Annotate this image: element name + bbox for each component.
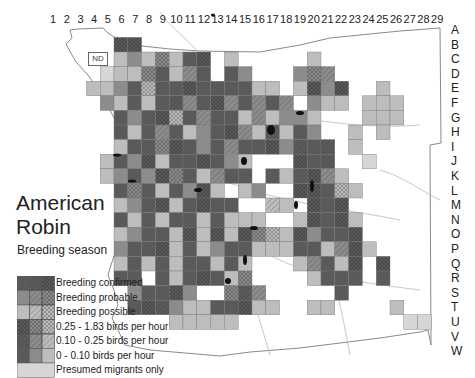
column-label: 9 — [160, 13, 166, 25]
grid-cell-pattern — [169, 286, 183, 301]
grid-cell — [280, 140, 294, 155]
grid-cell — [211, 300, 225, 315]
grid-cell — [169, 125, 183, 140]
grid-cell — [169, 81, 183, 96]
grid-cell-pattern — [349, 242, 363, 257]
grid-cell-pattern — [293, 154, 307, 169]
row-label: R — [451, 271, 460, 285]
grid-cell — [335, 271, 349, 286]
grid-cell — [197, 300, 211, 315]
grid-cell — [280, 169, 294, 184]
grid-cell — [142, 140, 156, 155]
column-label: 15 — [239, 13, 251, 25]
grid-cell — [293, 169, 307, 184]
row-label: W — [451, 344, 462, 358]
grid-cell-pattern — [307, 198, 321, 213]
grid-cell — [293, 213, 307, 228]
row-label: G — [451, 111, 460, 125]
grid-cell — [238, 183, 252, 198]
grid-cell — [224, 110, 238, 125]
row-label: S — [451, 286, 459, 300]
grid-cell-pattern — [211, 227, 225, 242]
grid-cell — [155, 256, 169, 271]
grid-cell — [183, 198, 197, 213]
grid-cell — [211, 315, 225, 330]
column-label: 12 — [198, 13, 210, 25]
column-label: 24 — [362, 13, 374, 25]
grid-cell — [197, 256, 211, 271]
grid-cell — [169, 256, 183, 271]
grid-cell — [169, 213, 183, 228]
grid-cell — [114, 67, 128, 82]
column-label: 26 — [390, 13, 402, 25]
grid-cell — [390, 300, 404, 315]
grid-cell — [376, 271, 390, 286]
grid-cell — [197, 96, 211, 111]
row-label: P — [451, 242, 459, 256]
grid-cell — [155, 67, 169, 82]
grid-cell — [100, 96, 114, 111]
grid-cell — [224, 213, 238, 228]
grid-cell — [128, 52, 142, 67]
grid-cell — [266, 96, 280, 111]
grid-cell — [335, 96, 349, 111]
grid-cell — [142, 286, 156, 301]
grid-cell — [266, 169, 280, 184]
grid-cell — [362, 154, 376, 169]
grid-cell-pattern — [197, 154, 211, 169]
legend-label: 0.25 - 1.83 birds per hour — [56, 320, 168, 334]
grid-cell — [142, 52, 156, 67]
row-label: U — [451, 315, 460, 329]
grid-cell — [404, 315, 418, 330]
grid-cell — [197, 140, 211, 155]
grid-cell — [376, 81, 390, 96]
grid-cell — [211, 183, 225, 198]
grid-cell-pattern — [349, 227, 363, 242]
grid-cell — [280, 198, 294, 213]
row-label: A — [451, 23, 459, 37]
column-label: 20 — [308, 13, 320, 25]
grid-cell — [418, 315, 432, 330]
grid-cell-pattern — [266, 227, 280, 242]
grid-cell — [211, 271, 225, 286]
grid-cell — [335, 286, 349, 301]
grid-cell-pattern — [155, 169, 169, 184]
grid-cell-pattern — [128, 37, 142, 52]
grid-cell — [307, 140, 321, 155]
grid-cell — [307, 271, 321, 286]
grid-cell — [321, 183, 335, 198]
grid-cell — [238, 110, 252, 125]
grid-cell — [321, 198, 335, 213]
grid-cell — [183, 286, 197, 301]
grid-cell — [142, 227, 156, 242]
row-label: D — [451, 67, 460, 81]
grid-cell — [293, 67, 307, 82]
grid-cell-pattern — [155, 198, 169, 213]
grid-cell — [211, 242, 225, 257]
grid-cell — [238, 81, 252, 96]
grid-cell — [114, 183, 128, 198]
grid-cell — [307, 154, 321, 169]
grid-cell-pattern — [183, 227, 197, 242]
grid-cell — [128, 242, 142, 257]
grid-cell — [197, 227, 211, 242]
legend-label: 0.10 - 0.25 birds per hour — [56, 334, 168, 348]
column-label: 25 — [376, 13, 388, 25]
grid-cell — [142, 169, 156, 184]
grid-cell-pattern — [335, 81, 349, 96]
grid-cell-pattern — [307, 67, 321, 82]
grid-cell — [128, 125, 142, 140]
grid-cell — [293, 242, 307, 257]
grid-cell — [169, 315, 183, 330]
row-label: B — [451, 38, 459, 52]
column-label: 11 — [184, 13, 195, 25]
grid-cell — [155, 81, 169, 96]
grid-cell — [266, 242, 280, 257]
no-data-label: ND — [88, 52, 108, 66]
grid-cell-pattern — [224, 140, 238, 155]
grid-cell — [335, 227, 349, 242]
grid-cell — [128, 140, 142, 155]
row-label: M — [451, 198, 461, 212]
grid-cell — [211, 81, 225, 96]
grid-cell — [142, 183, 156, 198]
